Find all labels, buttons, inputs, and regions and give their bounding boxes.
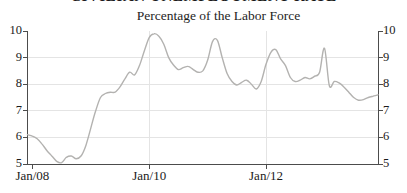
y-axis-label-right-6: 6	[383, 129, 407, 143]
y-axis-label-left-10: 10	[0, 23, 22, 37]
x-axis-label-Jan-12: Jan/12	[236, 169, 296, 183]
y-axis-label-left-7: 7	[0, 103, 22, 117]
line-plot-area	[0, 0, 407, 193]
y-axis-label-left-6: 6	[0, 129, 22, 143]
y-axis-label-right-9: 9	[383, 50, 407, 64]
y-axis-label-right-7: 7	[383, 103, 407, 117]
x-axis-label-Jan-10: Jan/10	[119, 169, 179, 183]
y-axis-label-right-8: 8	[383, 76, 407, 90]
y-axis-label-left-9: 9	[0, 50, 22, 64]
unemployment-rate-chart: CIVILIAN UNEMPLOYMENT RATE Percentage of…	[0, 0, 407, 193]
y-axis-label-right-5: 5	[383, 156, 407, 170]
y-axis-label-right-10: 10	[383, 23, 407, 37]
y-axis-label-left-8: 8	[0, 76, 22, 90]
x-axis-label-Jan-08: Jan/08	[2, 169, 62, 183]
